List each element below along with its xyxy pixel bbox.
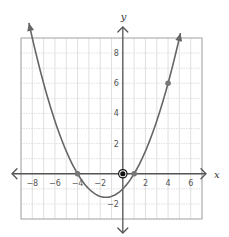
x-tick-label: −8 <box>26 179 38 188</box>
x-tick-label: 2 <box>143 179 148 188</box>
y-axis-label: y <box>120 11 127 22</box>
x-tick-label: 6 <box>188 179 193 188</box>
parabola-curve <box>27 23 182 197</box>
parabola-path <box>29 23 181 197</box>
x-tick-label: 4 <box>166 179 171 188</box>
highlighted-point[interactable] <box>120 171 125 176</box>
curve-right-arrow-icon <box>175 33 182 42</box>
plotted-point[interactable] <box>165 80 171 86</box>
y-tick-label: 6 <box>114 79 119 88</box>
y-tick-label: 4 <box>114 109 119 118</box>
y-tick-label: 8 <box>114 49 119 58</box>
y-tick-label: 2 <box>114 140 119 149</box>
grid-lines <box>21 38 202 219</box>
x-tick-label: −6 <box>49 179 61 188</box>
plotted-point[interactable] <box>75 171 81 177</box>
plotted-point[interactable] <box>131 171 137 177</box>
y-tick-label: −2 <box>107 200 119 209</box>
coordinate-plane: −8−6−4−2246−22468 x y <box>0 0 229 237</box>
x-tick-label: −2 <box>94 179 106 188</box>
x-axis-label: x <box>214 169 220 180</box>
curve-left-arrow-icon <box>27 23 34 32</box>
